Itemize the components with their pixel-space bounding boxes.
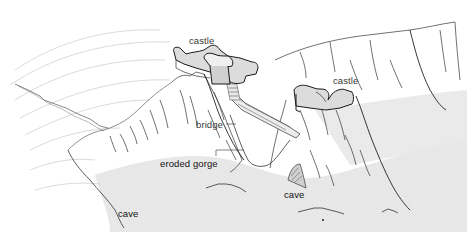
label-cave-left: cave xyxy=(118,208,138,219)
left-castle xyxy=(173,45,258,84)
label-cave-center: cave xyxy=(284,189,304,200)
illustration-canvas xyxy=(0,0,467,238)
label-eroded-gorge: eroded gorge xyxy=(160,158,218,169)
bridge xyxy=(232,96,300,138)
label-castle-left: castle xyxy=(189,35,214,46)
cliff-castle-diagram: castle castle bridge eroded gorge cave c… xyxy=(0,0,467,238)
label-bridge: bridge xyxy=(196,119,223,130)
label-castle-right: castle xyxy=(333,75,358,86)
river-edge xyxy=(15,84,108,128)
